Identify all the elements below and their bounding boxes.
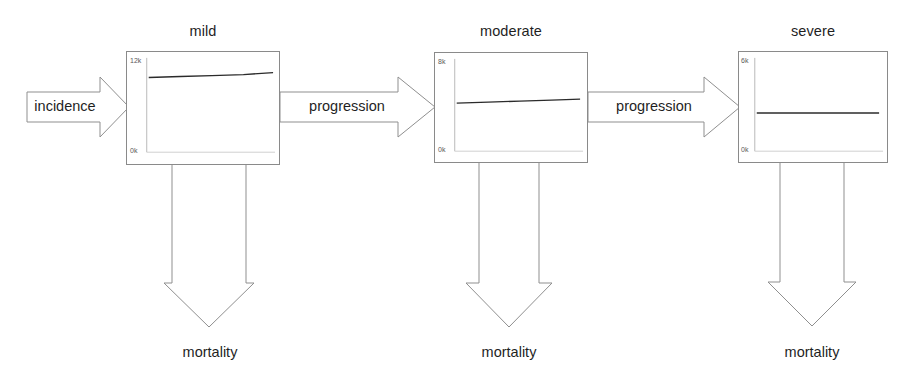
- mortality-arrow-moderate: [465, 163, 553, 328]
- mortality-arrow-mild: [163, 165, 255, 328]
- axis-label-severe-bottom: 0k: [741, 146, 748, 153]
- mortality-arrow-severe: [767, 163, 857, 327]
- diagram-canvas: incidence mild 12k 0k progression modera…: [0, 0, 916, 387]
- axis-label-moderate-bottom: 0k: [438, 146, 445, 153]
- state-title-mild: mild: [126, 23, 280, 39]
- mortality-label-severe: mortality: [757, 344, 867, 360]
- state-box-moderate: 8k 0k: [434, 52, 588, 163]
- state-box-severe: 6k 0k: [738, 51, 888, 163]
- mortality-label-mild: mortality: [155, 344, 265, 360]
- progression-label-2: progression: [594, 98, 714, 114]
- axis-label-mild-bottom: 0k: [130, 147, 137, 154]
- state-title-moderate: moderate: [434, 23, 588, 39]
- axis-label-moderate-top: 8k: [438, 58, 445, 65]
- state-title-severe: severe: [738, 23, 888, 39]
- mini-chart-severe: [739, 52, 887, 162]
- incidence-label: incidence: [26, 98, 104, 114]
- mortality-label-moderate: mortality: [454, 344, 564, 360]
- state-box-mild: 12k 0k: [126, 51, 280, 165]
- progression-label-1: progression: [287, 98, 407, 114]
- mini-chart-mild: [127, 52, 279, 164]
- axis-label-mild-top: 12k: [130, 57, 141, 64]
- mini-chart-moderate: [435, 53, 587, 162]
- axis-label-severe-top: 6k: [741, 57, 748, 64]
